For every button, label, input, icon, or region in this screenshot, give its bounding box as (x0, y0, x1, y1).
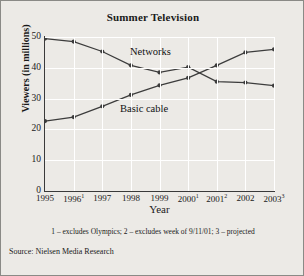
x-tick-label: 1999 (151, 193, 169, 203)
chart-figure: Summer Television Viewers (in millions) … (0, 0, 304, 276)
x-tick-label: 19961 (63, 193, 84, 204)
x-tick-label: 20012 (206, 193, 227, 204)
x-axis-title: Year (45, 203, 274, 215)
x-tick-label: 1998 (122, 193, 140, 203)
gridline-vertical (131, 37, 132, 191)
gridline-vertical (188, 37, 189, 191)
x-tick-label: 2002 (236, 193, 254, 203)
chart-source: Source: Nielsen Media Research (9, 247, 114, 256)
series-label-basic-cable: Basic cable (120, 103, 168, 114)
x-tick-label: 1997 (93, 193, 111, 203)
chart-title: Summer Television (1, 11, 304, 23)
gridline-vertical (245, 37, 246, 191)
chart-footnote: 1 – excludes Olympics; 2 – excludes week… (1, 227, 304, 236)
y-tick-label: 10 (19, 154, 41, 164)
data-point (45, 119, 47, 123)
gridline-vertical (102, 37, 103, 191)
x-axis-line (44, 191, 275, 192)
plot-area (45, 37, 274, 191)
gridline-vertical (217, 37, 218, 191)
gridline-vertical (274, 37, 275, 191)
x-tick-label: 20033 (264, 193, 285, 204)
y-tick-label: 40 (19, 62, 41, 72)
y-tick-label: 30 (19, 93, 41, 103)
y-tick-label: 50 (19, 31, 41, 41)
x-tick-label: 1995 (36, 193, 54, 203)
gridline-vertical (160, 37, 161, 191)
y-tick-label: 20 (19, 123, 41, 133)
gridline-vertical (74, 37, 75, 191)
series-label-networks: Networks (130, 46, 171, 57)
x-tick-label: 20001 (178, 193, 199, 204)
